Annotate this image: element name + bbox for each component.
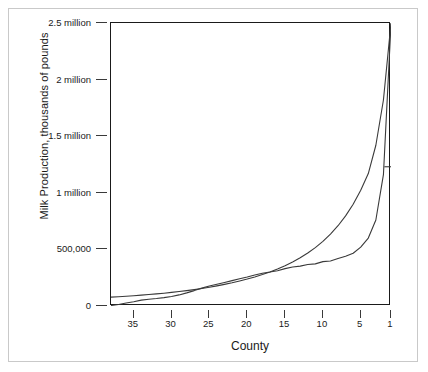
x-tick-mark <box>133 310 134 318</box>
chart-figure: Milk Production, thousands of pounds 050… <box>0 0 428 372</box>
y-axis-tick-marks <box>0 22 110 305</box>
y-tick-mark <box>96 248 107 249</box>
x-tick-mark <box>208 310 209 318</box>
x-tick-label: 30 <box>165 318 176 329</box>
y-tick-mark <box>96 79 107 80</box>
x-tick-label: 5 <box>357 318 362 329</box>
y-tick-mark <box>96 135 107 136</box>
x-tick-label: 35 <box>127 318 138 329</box>
x-tick-label: 25 <box>203 318 214 329</box>
x-tick-mark <box>171 310 172 318</box>
x-tick-label: 20 <box>241 318 252 329</box>
series-fitted-line <box>111 23 391 297</box>
x-axis-label: County <box>110 339 390 353</box>
x-tick-label: 10 <box>317 318 328 329</box>
y-tick-mark <box>96 22 107 23</box>
x-tick-label: 1 <box>387 318 392 329</box>
x-tick-mark <box>246 310 247 318</box>
x-axis-tick-labels: 35302520151051 <box>110 318 390 332</box>
x-tick-mark <box>322 310 323 318</box>
x-tick-mark <box>390 310 391 318</box>
x-tick-mark <box>360 310 361 318</box>
series-observed-line <box>111 24 391 305</box>
plot-area <box>110 22 390 305</box>
y-tick-mark <box>96 305 107 306</box>
x-tick-mark <box>284 310 285 318</box>
x-axis-tick-marks <box>110 305 390 317</box>
plot-lines <box>111 23 391 306</box>
y-tick-mark <box>96 192 107 193</box>
x-tick-label: 15 <box>279 318 290 329</box>
